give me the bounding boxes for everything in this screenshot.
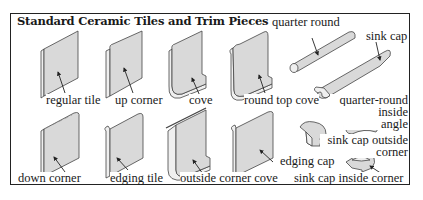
label-outside-corner-cove: outside corner cove bbox=[180, 172, 278, 184]
label-up-corner: up corner bbox=[115, 94, 163, 106]
label-sink-cap: sink cap bbox=[366, 30, 407, 42]
label-down-corner: down corner bbox=[18, 172, 81, 184]
down-corner-illustration bbox=[41, 113, 79, 179]
regular-tile-illustration bbox=[41, 31, 78, 98]
label-sink-cap-inside-corner: sink cap inside corner bbox=[294, 172, 403, 184]
label-round-top-cove: round top cove bbox=[244, 94, 319, 106]
label-edging-tile: edging tile bbox=[110, 172, 163, 184]
label-cove: cove bbox=[189, 94, 213, 106]
edging-cap-illustration bbox=[231, 112, 273, 179]
cove-illustration bbox=[169, 31, 206, 98]
label-regular-tile: regular tile bbox=[46, 94, 101, 106]
round-top-cove-illustration bbox=[230, 32, 272, 101]
outside-corner-cove-illustration bbox=[166, 108, 210, 180]
label-quarter-round: quarter round bbox=[272, 16, 340, 28]
label-quarter-round-inside-angle-3: angle bbox=[330, 118, 408, 130]
edging-tile-illustration bbox=[105, 113, 143, 178]
quarter-round-illustration bbox=[290, 32, 355, 73]
label-sink-cap-outside-corner-2: corner bbox=[320, 146, 408, 158]
up-corner-illustration bbox=[106, 31, 142, 98]
